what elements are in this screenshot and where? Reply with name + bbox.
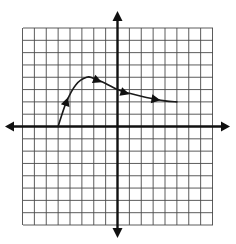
direction-arrow-icon	[61, 96, 72, 107]
coordinate-plane	[0, 0, 236, 244]
x-axis-left-arrow-icon	[5, 122, 14, 132]
axes	[5, 11, 230, 238]
x-axis-right-arrow-icon	[221, 122, 230, 132]
y-axis-down-arrow-icon	[113, 228, 123, 238]
y-axis-up-arrow-icon	[113, 11, 123, 21]
